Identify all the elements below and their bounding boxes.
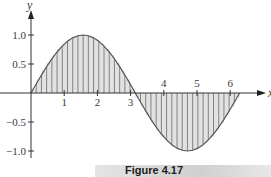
sine-riemann-chart: x y 123456 1.00.5−0.5−1.0 [0, 0, 271, 177]
x-axis-arrow-icon [257, 90, 266, 96]
y-tick-label: −0.5 [6, 116, 26, 128]
figure-caption: Figure 4.17 [125, 164, 183, 176]
y-tick-label: 0.5 [12, 58, 26, 70]
y-tick-label: −1.0 [6, 145, 26, 157]
y-tick-label: 1.0 [12, 29, 26, 41]
x-tick-label: 2 [95, 96, 101, 108]
x-tick-label: 4 [161, 77, 167, 89]
x-tick-label: 1 [61, 96, 67, 108]
x-tick-label: 5 [194, 77, 200, 89]
x-axis-label: x [267, 86, 271, 100]
x-tick-label: 3 [128, 96, 134, 108]
x-tick-label: 6 [227, 77, 233, 89]
y-axis-label: y [26, 0, 33, 12]
